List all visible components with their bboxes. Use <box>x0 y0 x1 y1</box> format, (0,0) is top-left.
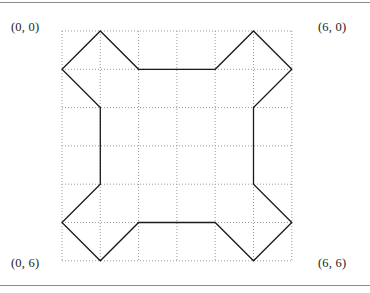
corner-label-top-right: (6, 0) <box>318 20 346 35</box>
grid-plot-area <box>0 0 370 293</box>
corner-label-top-left: (0, 0) <box>11 20 39 35</box>
corner-label-bottom-left: (0, 6) <box>11 256 39 271</box>
figure-page: (0, 0) (6, 0) (0, 6) (6, 6) <box>0 0 370 293</box>
grid-dotted-lines <box>62 31 292 261</box>
corner-label-bottom-right: (6, 6) <box>318 256 346 271</box>
